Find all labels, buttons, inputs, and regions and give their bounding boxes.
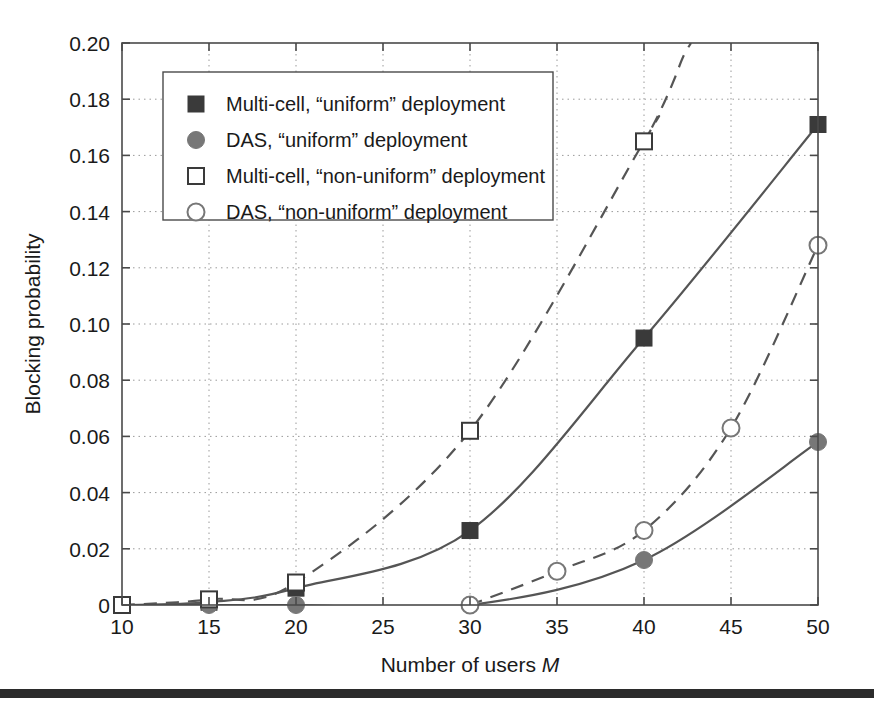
y-tick-label: 0.14 [69, 201, 110, 224]
legend-label: DAS, “non-uniform” deployment [226, 201, 508, 223]
data-point-marker [288, 575, 304, 591]
data-point-marker [636, 552, 653, 569]
x-tick-label: 25 [371, 615, 394, 638]
figure-container: 101520253035404550 00.020.040.060.080.10… [0, 0, 874, 702]
legend-label: Multi-cell, “uniform” deployment [226, 93, 505, 115]
y-tick-label: 0.06 [69, 425, 110, 448]
legend-marker-filled-square [188, 96, 204, 112]
y-tick-label: 0.12 [69, 257, 110, 280]
legend-label: DAS, “uniform” deployment [226, 129, 468, 151]
legend: Multi-cell, “uniform” deploymentDAS, “un… [163, 72, 553, 223]
data-point-marker [462, 423, 478, 439]
x-tick-label: 35 [545, 615, 568, 638]
x-tick-label: 10 [110, 615, 133, 638]
data-point-marker [549, 563, 566, 580]
y-tick-label: 0 [98, 594, 110, 617]
x-tick-label: 30 [458, 615, 481, 638]
data-point-marker [723, 419, 740, 436]
y-tick-label: 0.16 [69, 144, 110, 167]
x-tick-label: 45 [719, 615, 742, 638]
x-tick-label: 40 [632, 615, 655, 638]
legend-label: Multi-cell, “non-uniform” deployment [226, 165, 545, 187]
x-axis-title: Number of users M [381, 653, 560, 676]
y-tick-label: 0.10 [69, 313, 110, 336]
blocking-probability-chart: 101520253035404550 00.020.040.060.080.10… [0, 0, 874, 702]
x-tick-label: 15 [197, 615, 220, 638]
y-tick-label: 0.20 [69, 32, 110, 55]
x-tick-labels: 101520253035404550 [110, 615, 829, 638]
data-point-marker [462, 523, 478, 539]
legend-marker-open-circle [188, 204, 205, 221]
data-point-marker [636, 330, 652, 346]
y-tick-label: 0.02 [69, 538, 110, 561]
y-tick-labels: 00.020.040.060.080.100.120.140.160.180.2… [69, 32, 110, 617]
y-tick-label: 0.08 [69, 369, 110, 392]
y-axis-title: Blocking probability [21, 233, 44, 414]
bottom-rule [0, 689, 874, 698]
y-tick-label: 0.18 [69, 88, 110, 111]
x-tick-label: 20 [284, 615, 307, 638]
data-point-marker [636, 133, 652, 149]
y-tick-label: 0.04 [69, 482, 110, 505]
data-point-marker [636, 522, 653, 539]
x-tick-label: 50 [806, 615, 829, 638]
legend-marker-filled-circle [188, 132, 205, 149]
legend-marker-open-square [188, 168, 204, 184]
